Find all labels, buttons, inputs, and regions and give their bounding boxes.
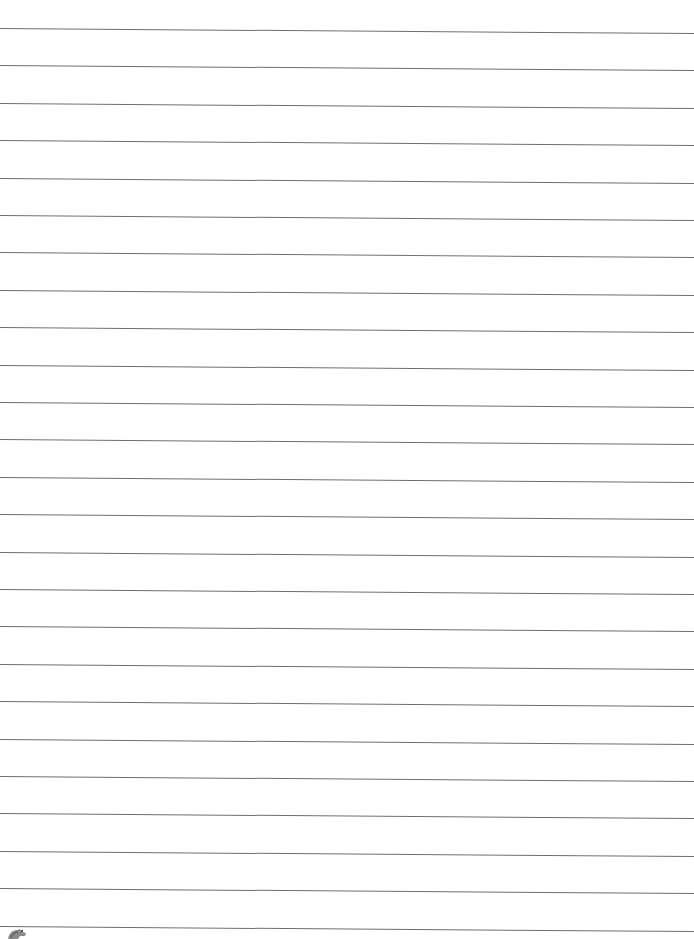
ruled-line: [0, 65, 694, 71]
ruled-line: [0, 701, 694, 707]
ruled-line: [0, 402, 694, 408]
ruled-line: [0, 888, 694, 894]
ruled-line: [0, 552, 694, 558]
ruled-line: [0, 776, 694, 782]
ruled-line: [0, 589, 694, 595]
ruled-line: [0, 514, 694, 520]
ruled-line: [0, 477, 694, 483]
ruled-line: [0, 439, 694, 445]
ruled-line: [0, 252, 694, 258]
ruled-line: [0, 365, 694, 371]
ruled-line: [0, 851, 694, 857]
ruled-line: [0, 813, 694, 819]
ruled-line: [0, 926, 694, 932]
ruled-line: [0, 739, 694, 745]
ruled-line: [0, 140, 694, 146]
ruled-line: [0, 626, 694, 632]
ruled-line: [0, 327, 694, 333]
ruled-line: [0, 215, 694, 221]
printer-logo-icon: [6, 927, 32, 939]
ruled-line: [0, 28, 694, 34]
ruled-line: [0, 290, 694, 296]
ruled-line: [0, 664, 694, 670]
ruled-line: [0, 178, 694, 184]
ruled-line: [0, 103, 694, 109]
